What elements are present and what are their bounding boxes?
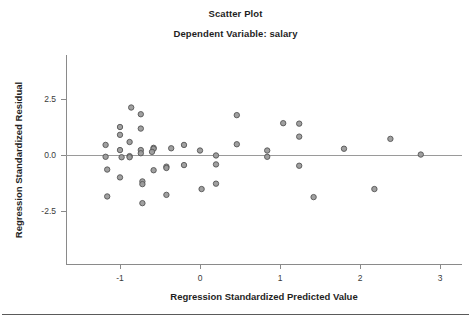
x-tick-label: 3 [438, 273, 443, 283]
data-point [213, 181, 218, 186]
y-axis-ticks: 2.50.0-2.5 [41, 94, 66, 216]
x-tick-label: -1 [116, 273, 124, 283]
data-point [140, 181, 145, 186]
data-point [129, 105, 134, 110]
data-point [149, 149, 154, 154]
data-point [119, 155, 124, 160]
data-point [297, 134, 302, 139]
plot-canvas: -10123 2.50.0-2.5 Regression Standardize… [0, 0, 471, 326]
data-point [103, 154, 108, 159]
data-point [418, 152, 423, 157]
y-tick-label: 2.5 [44, 94, 56, 104]
y-tick-label: 0.0 [44, 150, 56, 160]
data-point [372, 186, 377, 191]
x-axis-ticks: -10123 [116, 264, 442, 283]
y-tick-label: -2.5 [41, 206, 56, 216]
data-point [138, 151, 143, 156]
data-point [117, 147, 122, 152]
data-point [181, 162, 186, 167]
data-point [117, 132, 122, 137]
data-point [341, 146, 346, 151]
data-point [117, 124, 122, 129]
x-tick-label: 0 [198, 273, 203, 283]
data-point [265, 154, 270, 159]
data-point [199, 186, 204, 191]
x-tick-label: 2 [358, 273, 363, 283]
data-point [164, 165, 169, 170]
data-point [151, 168, 156, 173]
axes-group [66, 55, 462, 264]
data-point [105, 167, 110, 172]
data-point [105, 194, 110, 199]
data-point [265, 148, 270, 153]
x-tick-label: 1 [278, 273, 283, 283]
data-point [164, 192, 169, 197]
data-point [103, 142, 108, 147]
data-point [234, 142, 239, 147]
data-point [117, 175, 122, 180]
data-point [234, 112, 239, 117]
data-point [127, 139, 132, 144]
data-point [197, 148, 202, 153]
scatter-plot-figure: Scatter Plot Dependent Variable: salary … [0, 0, 471, 326]
data-point [127, 155, 132, 160]
data-point [181, 142, 186, 147]
data-point [140, 200, 145, 205]
y-axis-title: Regression Standardized Residual [13, 82, 24, 238]
data-point [138, 126, 143, 131]
x-axis-title: Regression Standardized Predicted Value [170, 291, 357, 302]
data-point [297, 121, 302, 126]
data-point [388, 136, 393, 141]
data-point [311, 194, 316, 199]
data-point [281, 120, 286, 125]
data-point [169, 146, 174, 151]
data-point [213, 153, 218, 158]
data-point [213, 162, 218, 167]
data-point [297, 163, 302, 168]
data-point [138, 112, 143, 117]
